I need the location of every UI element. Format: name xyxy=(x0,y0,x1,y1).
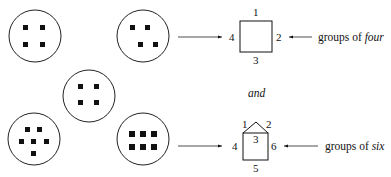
dot-group-four-1 xyxy=(9,10,61,62)
connector-and: and xyxy=(248,87,266,99)
square-label-3: 3 xyxy=(253,54,259,66)
house-shape: 1 2 3 4 5 6 xyxy=(232,118,277,174)
square-shape: 1 2 3 4 xyxy=(229,6,282,66)
caption-groups-of-four: groups of four xyxy=(318,31,384,44)
dot-group-four-2 xyxy=(117,10,169,62)
caption-groups-of-six: groups of six xyxy=(325,140,385,153)
dot-group-six-2 xyxy=(117,113,169,165)
square-label-1: 1 xyxy=(253,6,259,18)
house-label-3: 3 xyxy=(253,133,259,145)
dot-group-four-3 xyxy=(63,70,115,122)
house-label-5: 5 xyxy=(253,162,259,174)
house-label-1: 1 xyxy=(242,118,248,130)
groups-diagram: 1 2 3 4 groups of four and 1 2 3 4 5 6 g… xyxy=(0,0,391,177)
house-label-4: 4 xyxy=(232,140,238,152)
dot-group-six-1 xyxy=(8,113,60,165)
house-label-2: 2 xyxy=(266,118,272,130)
house-label-6: 6 xyxy=(271,140,277,152)
square-label-2: 2 xyxy=(276,31,282,43)
square-label-4: 4 xyxy=(229,31,235,43)
